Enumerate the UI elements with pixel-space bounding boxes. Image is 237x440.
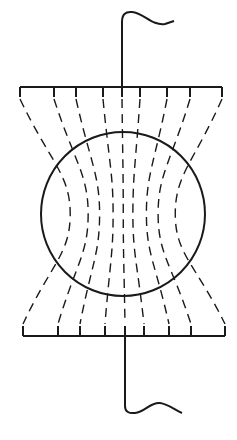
bottom-plate-ticks bbox=[23, 326, 225, 336]
field-line bbox=[76, 99, 100, 324]
sphere bbox=[41, 132, 205, 296]
plates bbox=[20, 87, 225, 336]
capacitor-sphere-diagram bbox=[0, 0, 237, 440]
diagram-canvas bbox=[0, 0, 237, 440]
bottom-lead-wire bbox=[125, 336, 182, 413]
field-line bbox=[20, 99, 70, 324]
top-lead-wire bbox=[122, 12, 174, 87]
field-line bbox=[146, 99, 169, 324]
top-plate-ticks bbox=[20, 87, 222, 97]
field-line bbox=[175, 99, 225, 324]
field-line bbox=[158, 99, 191, 324]
field-line bbox=[54, 99, 88, 324]
